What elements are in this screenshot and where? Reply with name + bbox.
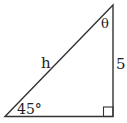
theta-label: θ [101, 16, 109, 31]
right-angle-marker [104, 107, 114, 117]
angle-45-label: 45° [17, 101, 42, 117]
hypotenuse-label: h [41, 54, 51, 72]
side-length-label: 5 [116, 55, 126, 73]
triangle [5, 5, 113, 117]
triangle-diagram: h 5 45° θ [0, 0, 127, 123]
